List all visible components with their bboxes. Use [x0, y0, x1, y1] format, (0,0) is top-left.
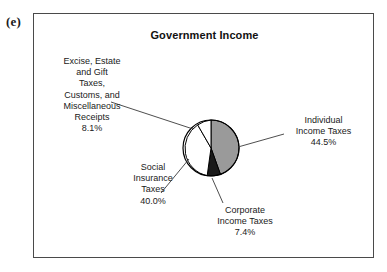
label-line: Income Taxes: [182, 216, 308, 227]
label-line: Miscellaneous: [34, 101, 150, 112]
pie-label-excise-estate-gift-customs-misc: Excise, Estate and Gift Taxes, Customs, …: [34, 56, 150, 134]
pie-label-social-insurance-taxes: Social Insurance Taxes 40.0%: [102, 162, 204, 207]
label-line: Social: [102, 162, 204, 173]
label-line: Receipts: [34, 112, 150, 123]
label-line: and Gift: [34, 67, 150, 78]
label-line: Individual: [272, 115, 375, 126]
label-line: Excise, Estate: [34, 56, 150, 67]
label-line: Income Taxes: [272, 126, 375, 137]
label-line: Insurance: [102, 173, 204, 184]
label-line: Customs, and: [34, 90, 150, 101]
label-value: 8.1%: [34, 123, 150, 134]
panel-letter: (e): [6, 14, 21, 30]
label-line: Taxes: [102, 184, 204, 195]
figure-container: (e) Government Income: [0, 0, 387, 272]
chart-frame: Government Income Exci: [33, 13, 374, 258]
label-value: 7.4%: [182, 227, 308, 238]
label-line: Taxes,: [34, 78, 150, 89]
pie-chart-plot-area: Excise, Estate and Gift Taxes, Customs, …: [34, 14, 375, 259]
label-value: 44.5%: [272, 137, 375, 148]
label-line: Corporate: [182, 205, 308, 216]
pie-label-individual-income-taxes: Individual Income Taxes 44.5%: [272, 115, 375, 149]
pie-label-corporate-income-taxes: Corporate Income Taxes 7.4%: [182, 205, 308, 239]
